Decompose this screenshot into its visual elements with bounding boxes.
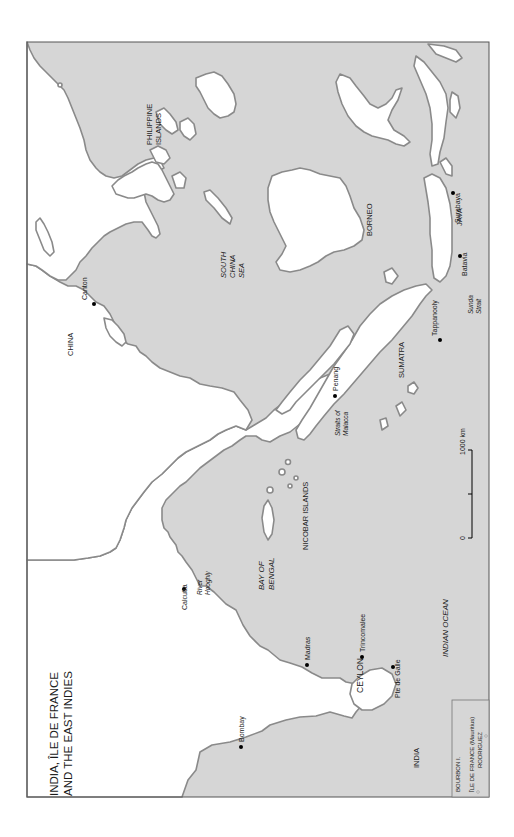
- title-line-1: INDIA, ÎLE DE FRANCE: [48, 672, 60, 796]
- label-indian-ocean: INDIAN OCEAN: [441, 599, 450, 657]
- svg-text:Hooghly: Hooghly: [204, 570, 212, 595]
- island-small: [58, 83, 62, 87]
- label-sumatra: SUMATRA: [397, 342, 406, 378]
- svg-text:Strait: Strait: [475, 298, 482, 314]
- island-nicobar-5: [294, 476, 298, 480]
- island-nicobar-3: [286, 460, 291, 465]
- island-nicobar-2: [279, 469, 285, 475]
- scale-label-zero: 0: [459, 536, 466, 540]
- title-line-2: AND THE EAST INDIES: [62, 671, 74, 796]
- inset-label-bourbon: BOURBON I.: [455, 756, 461, 792]
- svg-text:Straits of: Straits of: [334, 409, 341, 436]
- city-dot-penang: [333, 394, 337, 398]
- city-label-canton: Canton: [81, 277, 88, 300]
- label-ceylon: CEYLON: [355, 658, 365, 693]
- svg-text:ISLANDS: ISLANDS: [154, 113, 163, 145]
- svg-text:BAY OF: BAY OF: [257, 560, 266, 590]
- label-bay-of-bengal: BAY OF BENGAL: [257, 558, 276, 590]
- label-nicobar: NICOBAR ISLANDS: [301, 482, 310, 550]
- scale-label-max: 1000 km: [459, 428, 466, 455]
- city-label-batavia: Batavia: [461, 253, 468, 276]
- city-label-trincomalee: Trincomalee: [359, 614, 366, 652]
- inset-label-rodriguez: RODRIGUEZ: [477, 732, 483, 768]
- label-straits-of-malacca: Straits of Malacca: [334, 409, 349, 436]
- city-dot-trincomalee: [360, 655, 364, 659]
- city-label-calcutta: Calcutta: [181, 584, 188, 610]
- island-nicobar-4: [288, 484, 292, 488]
- label-india: INDIA: [412, 748, 421, 768]
- island-rodriguez: [485, 735, 487, 737]
- label-china: CHINA: [66, 333, 75, 356]
- svg-text:SOUTH: SOUTH: [219, 251, 228, 278]
- city-dot-madras: [305, 663, 309, 667]
- svg-text:SEA: SEA: [237, 263, 246, 278]
- city-label-bombay: Bombay: [238, 716, 246, 742]
- city-label-surabaya: Surabaya: [454, 193, 462, 223]
- city-dot-canton: [92, 302, 96, 306]
- inset-label-ile-de-france: ÎLE DE FRANCE (Mauritius): [469, 717, 475, 793]
- island-nicobar-1: [267, 487, 273, 493]
- svg-text:River: River: [196, 579, 203, 595]
- city-label-madras: Madras: [304, 636, 311, 660]
- svg-text:CHINA: CHINA: [228, 255, 237, 278]
- map: INDIA, ÎLE DE FRANCE AND THE EAST INDIES…: [0, 0, 514, 837]
- map-canvas: INDIA, ÎLE DE FRANCE AND THE EAST INDIES…: [0, 0, 514, 837]
- city-label-pte-de-galle: Pte de Galle: [394, 659, 401, 698]
- svg-text:BENGAL: BENGAL: [267, 558, 276, 590]
- svg-text:Sunda: Sunda: [467, 295, 474, 314]
- label-borneo: BORNEO: [365, 203, 374, 236]
- city-label-tappanooly: Tappanooly: [431, 300, 439, 336]
- svg-text:PHILIPPINE: PHILIPPINE: [145, 104, 154, 145]
- city-label-penang: Penang: [332, 367, 340, 391]
- city-dot-tappanooly: [438, 338, 442, 342]
- island-mauritius: [477, 791, 479, 793]
- city-dot-bombay: [239, 745, 243, 749]
- svg-text:Malacca: Malacca: [342, 411, 349, 436]
